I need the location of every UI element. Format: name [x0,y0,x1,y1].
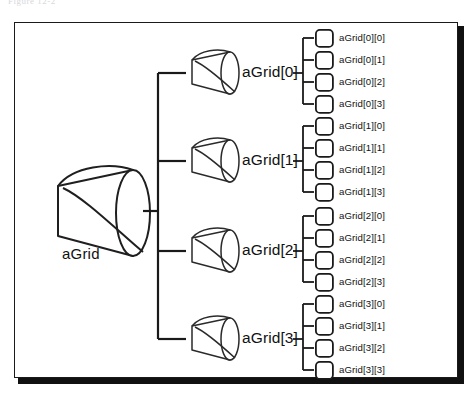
mid-node-label-1: aGrid[1] [242,151,298,169]
root-node-icon [58,166,150,256]
leaf-label-0-0: aGrid[0][0] [339,32,385,43]
diagram-vector-layer [14,22,460,380]
leaf-box-0-0 [316,30,333,47]
leaf-box-3-3 [316,362,333,379]
clipped-header-text: Figure 12-2 [8,0,158,8]
leaf-box-3-1 [316,318,333,335]
leaf-box-3-0 [316,296,333,313]
leaf-box-0-1 [316,52,333,69]
leaf-box-0-3 [316,96,333,113]
mid-node-icon-1 [192,138,239,182]
leaf-box-2-0 [316,208,333,225]
mid-node-label-3: aGrid[3] [242,329,298,347]
leaf-label-3-0: aGrid[3][0] [339,298,385,309]
leaf-label-2-3: aGrid[2][3] [339,276,385,287]
mid-node-label-0: aGrid[0] [242,63,298,81]
mid-node-icon-2 [192,228,239,272]
mid-node-icon-3 [192,316,239,360]
leaf-label-3-3: aGrid[3][3] [339,364,385,375]
mid-node-label-2: aGrid[2] [242,241,298,259]
leaf-box-3-2 [316,340,333,357]
leaf-box-1-2 [316,162,333,179]
leaf-label-1-0: aGrid[1][0] [339,120,385,131]
leaf-label-2-1: aGrid[2][1] [339,232,385,243]
leaf-label-1-2: aGrid[1][2] [339,164,385,175]
leaf-label-0-1: aGrid[0][1] [339,54,385,65]
leaf-label-0-3: aGrid[0][3] [339,98,385,109]
leaf-label-2-2: aGrid[2][2] [339,254,385,265]
leaf-label-0-2: aGrid[0][2] [339,76,385,87]
mid-node-icon-0 [192,50,239,94]
leaf-box-2-1 [316,230,333,247]
leaf-label-2-0: aGrid[2][0] [339,210,385,221]
leaf-box-1-0 [316,118,333,135]
leaf-label-1-3: aGrid[1][3] [339,186,385,197]
leaf-box-0-2 [316,74,333,91]
leaf-box-2-2 [316,252,333,269]
leaf-box-1-1 [316,140,333,157]
array-hierarchy-diagram: aGrid aGrid[0] aGrid[1] aGrid[2] aGrid[3… [14,22,460,380]
leaf-box-2-3 [316,274,333,291]
root-node-label: aGrid [62,245,100,262]
leaf-label-3-2: aGrid[3][2] [339,342,385,353]
leaf-box-1-3 [316,184,333,201]
leaf-label-3-1: aGrid[3][1] [339,320,385,331]
leaf-label-1-1: aGrid[1][1] [339,142,385,153]
